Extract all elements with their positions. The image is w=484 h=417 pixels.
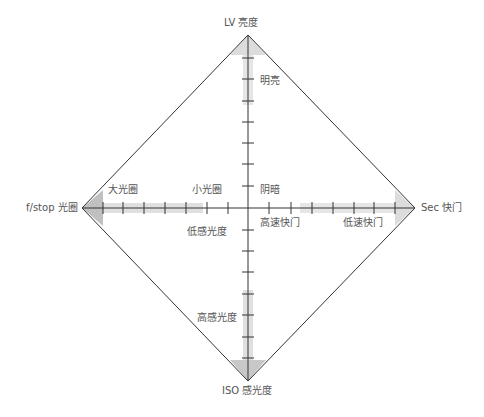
label-high-speed-shutter: 高速快门 [260, 217, 300, 229]
label-low-iso: 低感光度 [187, 226, 227, 238]
axis-label-bottom: ISO 感光度 [222, 385, 272, 397]
label-dark: 阴暗 [260, 184, 280, 196]
label-high-iso: 高感光度 [197, 312, 237, 324]
axis-label-right: Sec 快门 [421, 202, 462, 214]
label-low-speed-shutter: 低速快门 [343, 217, 383, 229]
axis-label-top: LV 亮度 [224, 17, 259, 29]
label-bright: 明亮 [260, 75, 280, 87]
label-large-aperture: 大光圈 [108, 184, 138, 196]
axis-label-left: f/stop 光圈 [26, 202, 78, 214]
label-small-aperture: 小光圈 [192, 184, 222, 196]
